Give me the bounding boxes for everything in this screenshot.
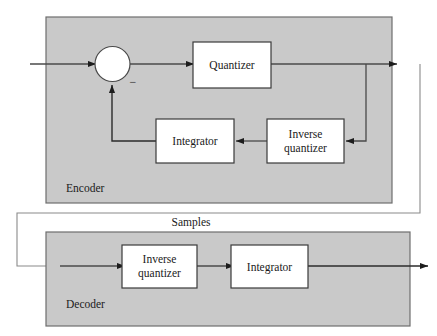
encoder-integrator-label: Integrator: [172, 135, 218, 148]
summing-junction-circle: [95, 47, 130, 82]
diagram-canvas: Encoder − Qua: [0, 0, 437, 336]
decoder-panel-rect: [46, 232, 410, 326]
decoder-inverse-quantizer-label-line1: Inverse: [143, 253, 177, 265]
samples-label: Samples: [172, 216, 211, 229]
summing-junction: [95, 47, 130, 82]
dpcm-block-diagram: Encoder − Qua: [0, 0, 437, 336]
block-quantizer: Quantizer: [193, 42, 271, 88]
block-decoder-integrator: Integrator: [231, 245, 308, 288]
encoder-inverse-quantizer-box: [267, 119, 344, 163]
block-encoder-integrator: Integrator: [156, 119, 234, 163]
encoder-inverse-quantizer-label-line1: Inverse: [289, 128, 323, 140]
encoder-inverse-quantizer-label-line2: quantizer: [284, 142, 327, 155]
decoder-panel: Decoder: [46, 232, 410, 326]
quantizer-label: Quantizer: [209, 59, 255, 71]
block-encoder-inverse-quantizer: Inverse quantizer: [267, 119, 344, 163]
decoder-integrator-label: Integrator: [247, 261, 293, 274]
decoder-inverse-quantizer-label-line2: quantizer: [138, 267, 181, 280]
block-decoder-inverse-quantizer: Inverse quantizer: [122, 245, 197, 288]
encoder-panel-label: Encoder: [66, 182, 104, 194]
decoder-panel-label: Decoder: [66, 298, 105, 310]
minus-sign-label: −: [130, 75, 137, 89]
